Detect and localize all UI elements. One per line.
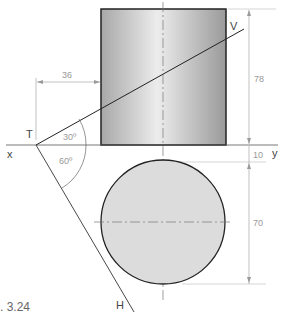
dimension-78-label: 78 (254, 74, 264, 84)
label-T: T (26, 128, 33, 140)
cylinder-elevation (101, 9, 226, 145)
drawing-canvas: 36 78 10 70 30º 60º T V H x y . 3.24 (0, 0, 282, 315)
arrow-left (37, 80, 43, 84)
angle-60-label: 60º (59, 156, 73, 166)
dimension-36-label: 36 (62, 70, 72, 80)
label-H: H (116, 299, 124, 311)
label-y: y (272, 147, 278, 159)
label-V: V (230, 20, 238, 32)
arrow-right (94, 80, 100, 84)
figure-caption: . 3.24 (0, 300, 30, 314)
arrow-down (247, 138, 251, 144)
arrow-down (247, 277, 251, 283)
dimension-10-label: 10 (253, 150, 263, 160)
label-x: x (7, 148, 13, 160)
arrow-up (247, 10, 251, 16)
arrow-up (247, 163, 251, 169)
dimension-70-label: 70 (253, 218, 263, 228)
angle-arc-60 (62, 145, 86, 188)
angle-arc-30 (79, 119, 86, 145)
angle-30-label: 30º (63, 132, 77, 142)
